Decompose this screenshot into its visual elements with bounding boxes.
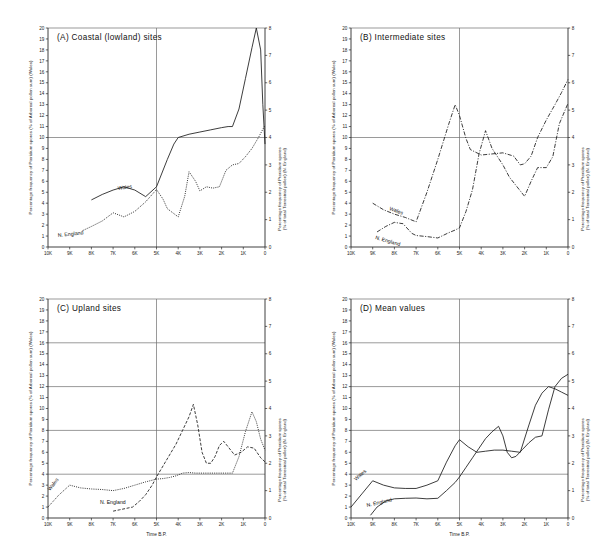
xtick-label: 9K [370,522,377,527]
ytick-label-left: 20 [39,297,45,302]
ytick-label-right: 7 [572,53,575,58]
xtick-label: 6K [435,251,442,256]
ytick-label-left: 14 [39,91,45,96]
ytick-label-right: 6 [269,80,272,85]
xtick-label: 7K [110,251,117,256]
axis-title-right: Percentage frequency of Pteridium spores [277,147,282,230]
ytick-label-right: 8 [572,297,575,302]
ytick-label-left: 1 [42,505,45,510]
xtick-label: 7K [413,522,420,527]
xtick-label: 3K [197,522,204,527]
ytick-label-left: 10 [39,135,45,140]
ytick-label-left: 16 [39,70,45,75]
ytick-label-right: 8 [269,297,272,302]
ytick-label-left: 0 [345,245,348,250]
ytick-label-left: 18 [342,48,348,53]
ytick-label-right: 7 [269,324,272,329]
chart-panel-c-upland-sites: 0123456789101112131415161718192001234567… [0,271,302,542]
panel-title: (D) Mean values [360,304,425,313]
panel-title: (C) Upland sites [57,304,121,313]
ytick-label-left: 8 [345,428,348,433]
ytick-label-left: 4 [345,201,348,206]
xtick-label: 1K [543,522,550,527]
ytick-label-left: 8 [42,157,45,162]
xtick-label: 1K [543,251,550,256]
ytick-label-left: 18 [342,319,348,324]
xtick-label: 10K [44,251,53,256]
ytick-label-left: 4 [345,472,348,477]
figure-pteridium-spore-frequency: 0123456789101112131415161718192001234567… [0,0,605,543]
ytick-label-left: 6 [345,179,348,184]
ytick-label-left: 13 [39,373,45,378]
xtick-label: 4K [478,251,485,256]
ytick-label-right: 6 [572,351,575,356]
axis-title-right: Percentage frequency of Pteridium spores [580,418,585,501]
ytick-label-left: 19 [39,308,45,313]
ytick-label-left: 13 [39,102,45,107]
ytick-label-right: 7 [269,53,272,58]
ytick-label-left: 9 [345,146,348,151]
axis-title-x: Time B.P. [146,532,166,537]
series-line-n-england [83,125,265,230]
xtick-label: 4K [478,522,485,527]
ytick-label-left: 20 [342,297,348,302]
ytick-label-left: 10 [342,135,348,140]
ytick-label-right: 3 [269,163,272,168]
series-label-n-england: N. England [375,234,401,247]
ytick-label-left: 20 [39,26,45,31]
axis-title-left: Percentage frequency of Pteridium spores… [331,331,336,485]
chart-panel-a-coastal-lowland-sites: 0123456789101112131415161718192001234567… [0,0,302,271]
series-label-n-england: N. England [57,229,83,238]
ytick-label-left: 5 [42,461,45,466]
axis-title-right: Percentage frequency of Pteridium spores [277,418,282,501]
xtick-label: 1K [240,251,247,256]
ytick-label-left: 7 [345,439,348,444]
xtick-label: 10K [347,522,356,527]
panel-a-svg: 0123456789101112131415161718192001234567… [0,0,302,271]
ytick-label-right: 2 [269,190,272,195]
xtick-label: 8K [392,522,399,527]
ytick-label-left: 10 [342,406,348,411]
ytick-label-right: 6 [572,80,575,85]
xtick-label: 2K [522,522,529,527]
panel-title: (B) Intermediate sites [360,33,446,42]
ytick-label-left: 17 [342,59,348,64]
xtick-label: 4K [175,522,182,527]
ytick-label-right: 0 [572,516,575,521]
ytick-label-left: 2 [345,223,348,228]
xtick-label: 0 [264,522,267,527]
ytick-label-right: 4 [269,406,272,411]
panel-c-svg: 0123456789101112131415161718192001234567… [0,271,302,542]
series-line-wales [91,28,265,200]
ytick-label-left: 11 [343,124,348,129]
ytick-label-left: 6 [42,179,45,184]
xtick-label: 4K [175,251,182,256]
series-label-wales: Wales [389,205,405,216]
xtick-label: 10K [44,522,53,527]
ytick-label-right: 0 [269,245,272,250]
ytick-label-left: 9 [42,146,45,151]
ytick-label-left: 15 [342,351,348,356]
ytick-label-left: 2 [42,223,45,228]
chart-panel-d-mean-values: 0123456789101112131415161718192001234567… [303,271,605,542]
ytick-label-right: 1 [572,217,575,222]
ytick-label-left: 6 [42,450,45,455]
xtick-label: 8K [89,522,96,527]
xtick-label: 0 [264,251,267,256]
ytick-label-left: 8 [345,157,348,162]
ytick-label-right: 4 [572,135,575,140]
ytick-label-left: 1 [345,234,348,239]
ytick-label-right: 1 [269,217,272,222]
ytick-label-left: 12 [342,113,348,118]
axis-title-left: Percentage frequency of Pteridium spores… [28,331,33,485]
ytick-label-right: 0 [269,516,272,521]
xtick-label: 9K [67,251,74,256]
series-label-n-england: N. England [100,499,126,505]
xtick-label: 5K [154,522,161,527]
ytick-label-left: 9 [42,417,45,422]
xtick-label: 6K [435,522,442,527]
ytick-label-left: 13 [342,373,348,378]
xtick-label: 0 [567,522,570,527]
ytick-label-right: 5 [269,379,272,384]
xtick-label: 8K [392,251,399,256]
